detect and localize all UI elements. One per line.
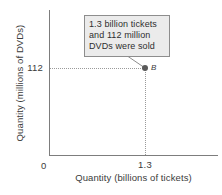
axis-origin-label: 0 (41, 160, 46, 171)
x-axis-title: Quantity (billions of tickets) (49, 172, 218, 183)
data-point-b (142, 65, 148, 71)
y-axis-line (49, 10, 50, 156)
x-axis-line (49, 155, 218, 156)
annotation-line-2: and 112 million (89, 30, 165, 41)
annotation-line-3: DVDs were sold (89, 41, 165, 52)
y-axis-tick-label-112: 112 (27, 62, 43, 73)
chart-container: 112 0 1.3 Quantity (millions of DVDs) Qu… (0, 0, 222, 195)
horizontal-dropline-112 (50, 68, 145, 69)
data-point-b-label: B (151, 63, 156, 72)
annotation-callout-box: 1.3 billion tickets and 112 million DVDs… (84, 15, 170, 57)
annotation-line-1: 1.3 billion tickets (89, 19, 165, 30)
x-axis-tick-label-1-3: 1.3 (138, 159, 152, 170)
vertical-dropline-1-3 (145, 68, 146, 155)
y-axis-title: Quantity (millions of DVDs) (14, 10, 28, 156)
